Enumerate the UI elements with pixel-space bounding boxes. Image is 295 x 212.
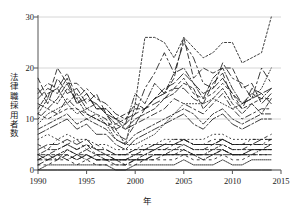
y-tick-label: 30 [14, 12, 34, 22]
x-axis-label: 年 [0, 190, 295, 208]
x-tick-label: 2015 [273, 176, 290, 186]
x-tick-label: 2010 [224, 176, 241, 186]
y-axis-label-text: 法律職採用者数 [9, 73, 18, 139]
data-line-series-08 [38, 94, 271, 140]
y-tick-label: 20 [14, 63, 34, 73]
x-tick-label: 1990 [30, 176, 47, 186]
data-line-series-06 [38, 78, 271, 124]
tick-marks [34, 17, 281, 174]
x-axis-label-text: 年 [143, 196, 152, 206]
x-tick-label: 1995 [78, 176, 95, 186]
data-line-series-01 [38, 17, 271, 145]
y-tick-label: 10 [14, 114, 34, 124]
data-series-group [38, 17, 271, 170]
data-line-series-09 [38, 83, 271, 129]
data-line-series-18 [38, 155, 271, 160]
data-line-series-04 [38, 68, 271, 145]
y-tick-label: 0 [14, 165, 34, 175]
data-line-series-19 [38, 155, 271, 165]
data-line-series-22 [38, 160, 271, 170]
line-chart: 法律職採用者数 年 199019952000200520102015 01020… [0, 0, 295, 212]
x-tick-label: 2005 [175, 176, 192, 186]
x-tick-label: 2000 [127, 176, 144, 186]
